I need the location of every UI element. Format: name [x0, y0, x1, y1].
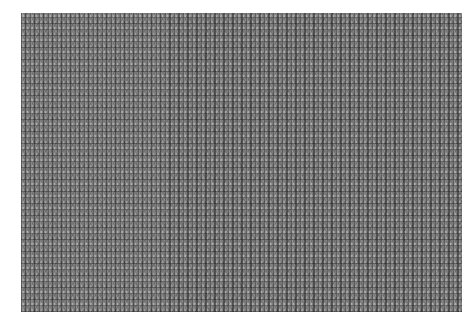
knit-fabric-texture: [21, 13, 462, 312]
